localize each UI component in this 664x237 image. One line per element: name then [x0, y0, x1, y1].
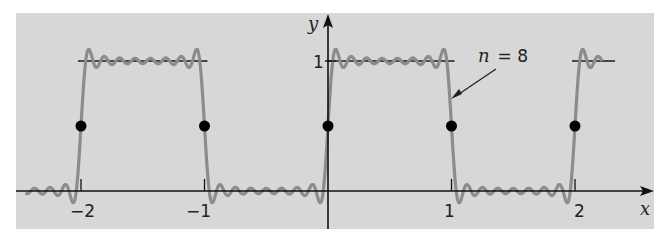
annotation-n: n — [478, 45, 490, 66]
x-tick-label-1: 1 — [444, 201, 455, 221]
midpoint-dot — [199, 121, 210, 132]
midpoint-dot — [570, 121, 581, 132]
fourier-square-wave-chart: y x 1 −2 −1 1 2 n = 8 — [0, 0, 664, 237]
midpoint-dot — [323, 121, 334, 132]
y-tick-label-1: 1 — [313, 52, 324, 72]
x-axis-label: x — [640, 198, 650, 219]
annotation-eq: = 8 — [498, 46, 528, 66]
x-tick-label-neg2: −2 — [70, 201, 95, 221]
midpoint-dot — [76, 121, 87, 132]
x-tick-label-neg1: −1 — [186, 201, 211, 221]
x-tick-label-2: 2 — [574, 201, 585, 221]
y-axis-label: y — [307, 13, 319, 34]
midpoint-dot — [446, 121, 457, 132]
plot-background — [16, 13, 654, 229]
annotation-label: n = 8 — [478, 45, 528, 66]
